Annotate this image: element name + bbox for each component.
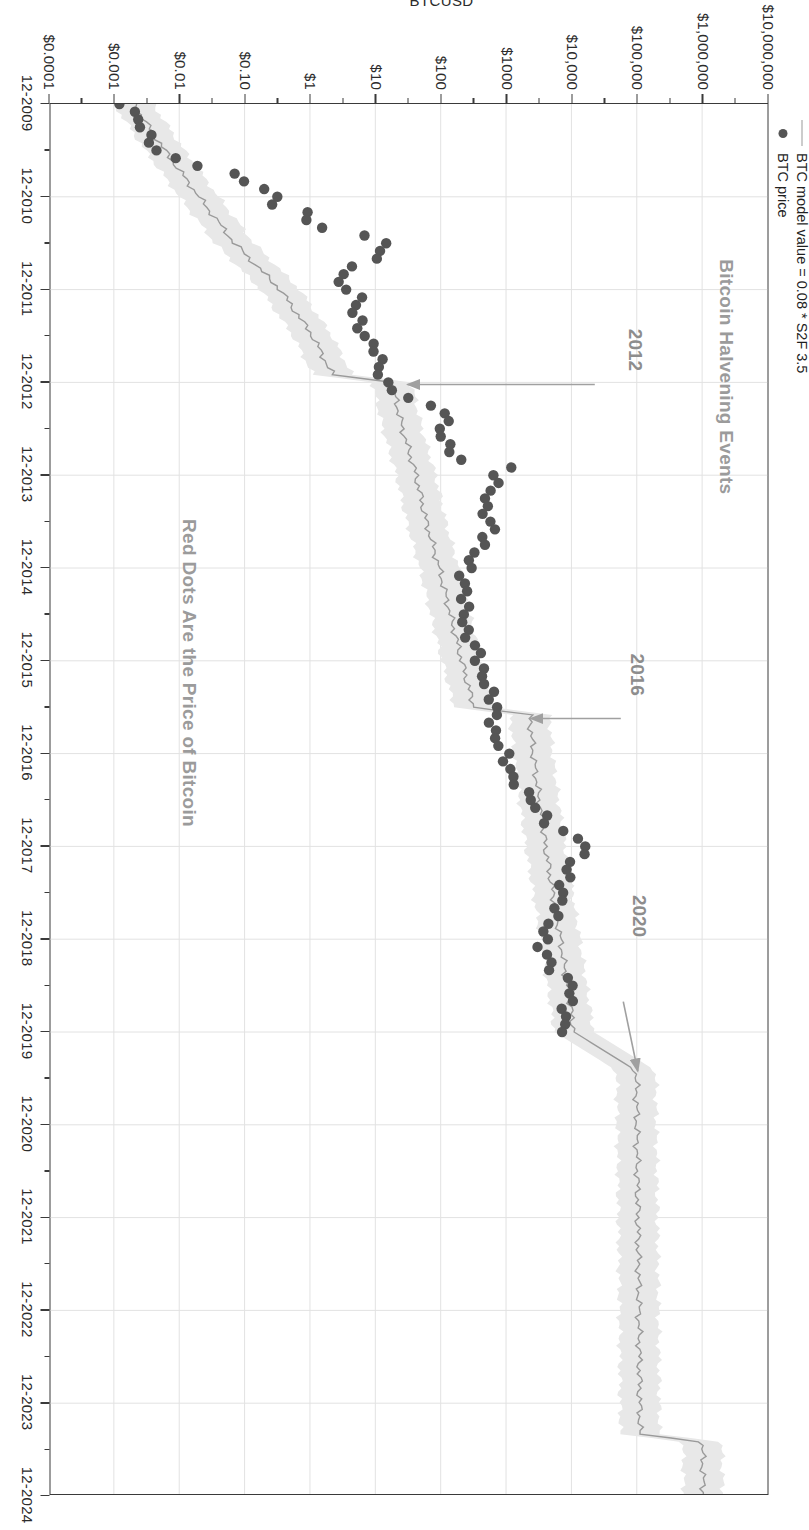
- y-tick-minor: [734, 98, 735, 103]
- x-tick-minor: [44, 335, 49, 336]
- chart-title: Bitcoin Halvening Events: [714, 259, 736, 494]
- y-tick-label: $10: [367, 64, 384, 90]
- y-tick-label: $0.01: [171, 51, 188, 90]
- price-dot: [352, 323, 362, 333]
- y-tick-label: $1: [302, 73, 319, 90]
- y-tick-minor: [538, 98, 539, 103]
- x-tick-label: 12-2017: [18, 817, 35, 873]
- y-tick-minor: [603, 98, 604, 103]
- y-tick-major: [636, 94, 637, 103]
- x-tick-label: 12-2023: [18, 1374, 35, 1430]
- x-tick-major: [40, 381, 49, 382]
- line-swatch-icon: [801, 120, 802, 146]
- legend-label-model: BTC model value = 0.08 * S2F 3.5: [794, 153, 809, 373]
- legend-label-price: BTC price: [775, 153, 791, 217]
- price-dot: [347, 308, 357, 318]
- x-tick-minor: [44, 613, 49, 614]
- x-tick-label: 12-2010: [18, 168, 35, 224]
- x-tick-minor: [44, 1263, 49, 1264]
- price-dot: [483, 717, 493, 727]
- halving-label-2020: 2020: [627, 895, 649, 937]
- price-dot: [425, 400, 435, 410]
- y-tick-minor: [669, 98, 670, 103]
- x-tick-minor: [44, 985, 49, 986]
- chart-canvas: BTC model value = 0.08 * S2F 3.5 BTC pri…: [0, 0, 809, 1530]
- price-dot: [435, 431, 445, 441]
- x-tick-minor: [44, 1356, 49, 1357]
- x-tick-label: 12-2024: [18, 1467, 35, 1523]
- x-tick-minor: [44, 892, 49, 893]
- legend-item-price: BTC price: [773, 120, 792, 373]
- price-dot: [368, 346, 378, 356]
- chart-legend: BTC model value = 0.08 * S2F 3.5 BTC pri…: [773, 120, 809, 373]
- x-tick-major: [40, 289, 49, 290]
- x-tick-major: [40, 103, 49, 104]
- y-tick-major: [178, 94, 179, 103]
- price-dot: [238, 176, 248, 186]
- price-dot: [346, 261, 356, 271]
- x-tick-major: [40, 753, 49, 754]
- price-dot: [359, 331, 369, 341]
- x-tick-minor: [44, 799, 49, 800]
- price-dot: [333, 277, 343, 287]
- x-tick-minor: [44, 1170, 49, 1171]
- x-tick-major: [40, 1402, 49, 1403]
- x-tick-label: 12-2014: [18, 539, 35, 595]
- price-dot: [371, 253, 381, 263]
- legend-item-model: BTC model value = 0.08 * S2F 3.5: [792, 120, 809, 373]
- x-tick-minor: [44, 1077, 49, 1078]
- x-tick-major: [40, 196, 49, 197]
- y-tick-minor: [80, 98, 81, 103]
- y-tick-label: $100,000: [629, 26, 646, 90]
- x-tick-major: [40, 1309, 49, 1310]
- price-dot: [497, 756, 507, 766]
- y-tick-label: $0.0001: [41, 34, 58, 90]
- price-dot: [477, 509, 487, 519]
- x-tick-label: 12-2015: [18, 632, 35, 688]
- price-dot: [229, 168, 239, 178]
- y-tick-major: [113, 94, 114, 103]
- y-tick-major: [309, 94, 310, 103]
- x-tick-major: [40, 845, 49, 846]
- price-dot: [456, 455, 466, 465]
- x-tick-label: 12-2021: [18, 1188, 35, 1244]
- x-tick-label: 12-2009: [18, 75, 35, 131]
- plot-svg: [49, 104, 767, 1495]
- halving-label-2012: 2012: [623, 329, 645, 371]
- x-tick-label: 12-2018: [18, 910, 35, 966]
- x-tick-label: 12-2022: [18, 1281, 35, 1337]
- x-tick-minor: [44, 1449, 49, 1450]
- x-tick-major: [40, 660, 49, 661]
- price-dot: [579, 849, 589, 859]
- y-tick-major: [374, 94, 375, 103]
- y-tick-minor: [146, 98, 147, 103]
- x-tick-major: [40, 1124, 49, 1125]
- chart-note: Red Dots Are the Price of Bitcoin: [177, 519, 199, 827]
- y-tick-major: [244, 94, 245, 103]
- x-tick-major: [40, 1031, 49, 1032]
- y-tick-label: $100: [433, 56, 450, 90]
- price-dot: [508, 779, 518, 789]
- x-tick-major: [40, 938, 49, 939]
- price-dot: [301, 215, 311, 225]
- y-tick-major: [440, 94, 441, 103]
- y-tick-minor: [407, 98, 408, 103]
- x-tick-label: 12-2011: [18, 261, 35, 316]
- dot-swatch-icon: [778, 120, 787, 146]
- x-tick-minor: [44, 706, 49, 707]
- x-tick-major: [40, 474, 49, 475]
- y-tick-label: $1,000,000: [694, 13, 711, 90]
- x-tick-label: 12-2016: [18, 724, 35, 780]
- price-dot: [506, 462, 516, 472]
- y-tick-label: $10,000: [563, 34, 580, 90]
- y-tick-minor: [276, 98, 277, 103]
- y-tick-label: $1000: [498, 47, 515, 90]
- y-tick-label: $10,000,000: [760, 4, 777, 90]
- x-tick-major: [40, 1217, 49, 1218]
- x-tick-label: 12-2013: [18, 446, 35, 502]
- price-dot: [340, 284, 350, 294]
- y-tick-major: [48, 94, 49, 103]
- model-value-line: [135, 104, 705, 1495]
- x-tick-minor: [44, 428, 49, 429]
- price-dot: [359, 230, 369, 240]
